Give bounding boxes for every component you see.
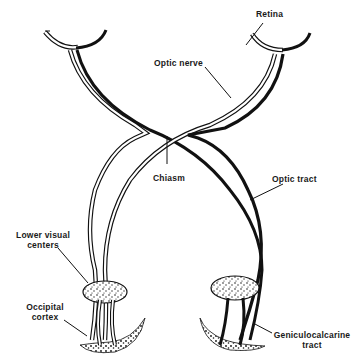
label-lower-visual-line1: Lower visual [13,230,73,240]
label-geniculocalcarine-tract: Geniculocalcarine tract [266,330,358,350]
label-geniculo-line2: tract [266,340,358,350]
label-optic-tract: Optic tract [272,174,317,184]
label-retina: Retina [256,9,283,19]
left-retina [45,30,106,48]
right-retina [252,33,310,50]
label-occipital-line1: Occipital [22,302,68,312]
label-geniculo-line1: Geniculocalcarine [266,330,358,340]
label-lower-visual-centers: Lower visual centers [13,230,73,250]
right-lower-visual-center [211,276,259,300]
label-lower-visual-line2: centers [13,240,73,250]
label-chiasm: Chiasm [153,173,185,183]
left-lower-visual-center [83,281,127,303]
label-optic-nerve: Optic nerve [154,58,203,68]
label-occipital-line2: cortex [22,312,68,322]
label-occipital-cortex: Occipital cortex [22,302,68,322]
